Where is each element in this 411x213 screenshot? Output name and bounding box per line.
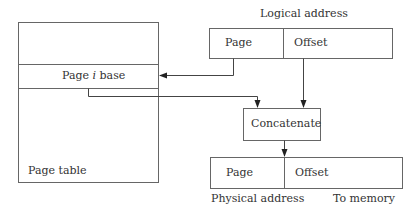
logical-page-label: Page [225,37,252,49]
page-index-arrow [160,59,234,76]
logical-offset-label: Offset [294,37,327,49]
page-table-caption: Page table [28,165,87,177]
diagram-canvas [0,0,411,213]
physical-address-title: Physical address [211,193,304,205]
physical-offset-label: Offset [295,167,328,179]
page-table-box [19,23,159,183]
page-i-base-label: Page i base [62,70,125,82]
logical-address-title: Logical address [260,8,348,20]
concatenate-label: Concatenate [251,118,321,130]
to-memory-label: To memory [333,193,395,205]
physical-page-label: Page [226,167,253,179]
frame-base-arrow [89,89,258,108]
